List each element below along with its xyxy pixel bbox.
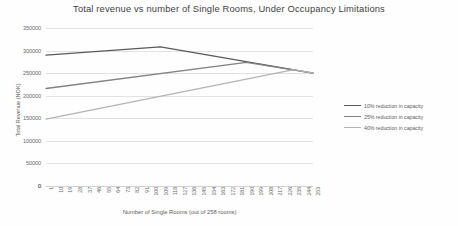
legend-item[interactable]: 10% reduction in capacity xyxy=(344,100,456,111)
x-axis-tick-label: 244 xyxy=(306,187,312,196)
x-axis-tick-label: 100 xyxy=(153,187,159,196)
y-axis-tick-label: 300000 xyxy=(23,48,41,54)
x-axis-tick-label: 118 xyxy=(172,187,178,195)
y-axis-tick-label: 150000 xyxy=(23,115,41,121)
series-line xyxy=(46,70,313,120)
x-axis-tick-label: 181 xyxy=(239,187,245,196)
series-layer xyxy=(46,28,313,186)
x-axis-tick-label: 208 xyxy=(268,187,274,196)
y-axis-tick-label: 200000 xyxy=(23,93,41,99)
x-axis-tick-label: 136 xyxy=(191,187,197,196)
x-axis-tick-labels: 1101928374655647382911001091181271361451… xyxy=(46,187,313,209)
x-axis-tick-label: 64 xyxy=(115,187,121,193)
x-axis-tick-label: 154 xyxy=(211,187,217,196)
x-axis-tick-label: 145 xyxy=(201,187,207,196)
y-axis-tick-label: 250000 xyxy=(23,70,41,76)
series-line xyxy=(46,47,313,73)
x-axis-tick-label: 235 xyxy=(296,187,302,196)
x-axis-tick-label: 10 xyxy=(58,187,64,193)
y-axis-tick-label: 350000 xyxy=(23,25,41,31)
legend-swatch-icon xyxy=(344,116,361,118)
legend-swatch-icon xyxy=(344,105,361,107)
x-axis-tick-label: 127 xyxy=(182,187,188,196)
x-axis-tick-label: 217 xyxy=(277,187,283,196)
x-axis-tick-label: 55 xyxy=(106,187,112,193)
x-axis-tick-label: 109 xyxy=(163,187,169,196)
x-axis-tick-label: 1 xyxy=(48,187,54,190)
legend-item-label: 10% reduction in capacity xyxy=(364,103,423,109)
x-axis-tick-label: 82 xyxy=(134,187,140,193)
legend-swatch-icon xyxy=(344,127,361,129)
x-axis-tick-label: 46 xyxy=(96,187,102,193)
x-axis-tick-label: 172 xyxy=(230,187,236,196)
x-axis-title: Number of Single Rooms (out of 258 rooms… xyxy=(46,209,313,215)
y-axis-tick-label: 50000 xyxy=(26,160,41,166)
x-axis-tick-label: 73 xyxy=(125,187,131,193)
series-line xyxy=(46,62,313,88)
x-axis-tick-label: 28 xyxy=(77,187,83,193)
legend-item[interactable]: 25% reduction in capacity xyxy=(344,111,456,122)
plot-area xyxy=(46,28,313,186)
x-axis-tick-label: 91 xyxy=(144,187,150,193)
legend-item-label: 25% reduction in capacity xyxy=(364,114,423,120)
y-axis-tick-label: 100000 xyxy=(23,138,41,144)
x-axis-tick-label: 37 xyxy=(87,187,93,193)
x-axis-tick-label: 226 xyxy=(287,187,293,196)
y-axis-tick-labels: 0500001000001500002000002500003000003500… xyxy=(0,28,44,186)
legend-item-label: 40% reduction in capacity xyxy=(364,125,423,131)
chart-title: Total revenue vs number of Single Rooms,… xyxy=(0,3,458,14)
chart-container: Total revenue vs number of Single Rooms,… xyxy=(0,0,458,226)
x-axis-tick-label: 199 xyxy=(258,187,264,196)
x-axis-tick-label: 163 xyxy=(220,187,226,196)
x-axis-tick-label: 253 xyxy=(315,187,321,196)
x-axis-tick-label: 190 xyxy=(249,187,255,196)
chart-legend: 10% reduction in capacity25% reduction i… xyxy=(344,100,456,133)
x-axis-origin-label: 0 xyxy=(38,183,41,189)
legend-item[interactable]: 40% reduction in capacity xyxy=(344,122,456,133)
x-axis-tick-label: 19 xyxy=(67,187,73,193)
